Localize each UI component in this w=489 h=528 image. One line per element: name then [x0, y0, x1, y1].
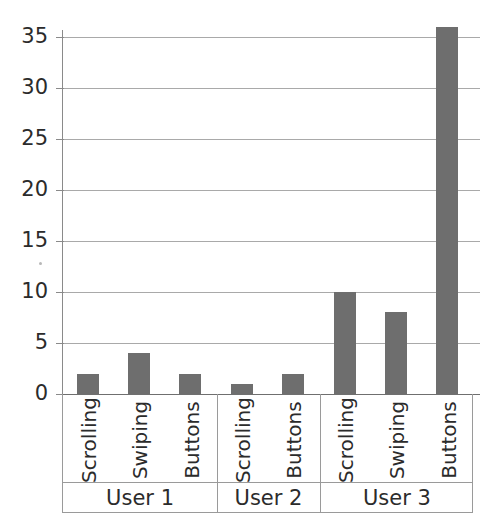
bar — [436, 27, 458, 394]
y-tick-label-text: 25 — [0, 128, 48, 149]
category-label-text: Swiping — [387, 401, 407, 479]
y-tick-label-text: 35 — [0, 26, 48, 47]
bar — [231, 384, 253, 394]
plot-area — [62, 18, 473, 394]
y-tick-label-text: 15 — [0, 230, 48, 251]
bar — [334, 292, 356, 394]
category-label: Swiping — [114, 394, 165, 482]
bar — [179, 374, 201, 394]
group-label: User 3 — [320, 483, 474, 512]
category-label: Buttons — [423, 394, 474, 482]
group-label: User 1 — [63, 483, 217, 512]
category-label-text: Buttons — [438, 401, 458, 478]
category-label: Buttons — [166, 394, 217, 482]
y-tick-label-text: 30 — [0, 77, 48, 98]
bar — [77, 374, 99, 394]
category-label-box: ScrollingSwipingButtonsScrollingButtonsS… — [62, 394, 473, 513]
bar — [385, 312, 407, 394]
category-label-text: Scrolling — [336, 397, 356, 483]
category-label-text: Buttons — [284, 401, 304, 478]
category-label-text: Scrolling — [233, 397, 253, 483]
category-label: Buttons — [269, 394, 320, 482]
group-separator — [320, 394, 321, 513]
category-label: Scrolling — [63, 394, 114, 482]
y-tick-label-text: 0 — [0, 383, 48, 404]
y-tick-label-text: 5 — [0, 332, 48, 353]
group-separator — [217, 394, 218, 513]
bar — [128, 353, 150, 394]
bar — [282, 374, 304, 394]
category-label: Scrolling — [217, 394, 268, 482]
bar-chart: 35302520151050 ScrollingSwipingButtonsSc… — [0, 0, 489, 528]
scan-artifact-dot — [39, 262, 42, 265]
category-label-text: Scrolling — [79, 397, 99, 483]
category-label-text: Buttons — [181, 401, 201, 478]
category-label: Scrolling — [320, 394, 371, 482]
y-tick-label-text: 20 — [0, 179, 48, 200]
category-label-text: Swiping — [130, 401, 150, 479]
category-label: Swiping — [371, 394, 422, 482]
y-tick-label-text: 10 — [0, 281, 48, 302]
group-label: User 2 — [217, 483, 320, 512]
